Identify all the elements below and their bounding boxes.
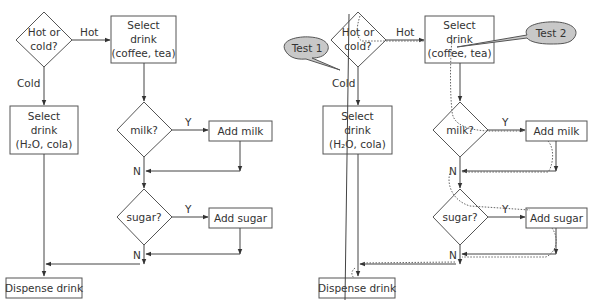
milk-no-label: N xyxy=(133,165,141,177)
test1-path xyxy=(345,14,349,300)
sugar-yes-label: Y xyxy=(184,203,192,215)
sugar-question: sugar? xyxy=(442,211,477,223)
milk-yes-label: Y xyxy=(184,116,192,128)
hot-or-cold-text-1: Hot or xyxy=(342,26,375,38)
select-cold-text-3: (H₂O, cola) xyxy=(329,138,386,150)
select-cold-text-3: (H₂O, cola) xyxy=(16,138,73,150)
test2-callout-text: Test 2 xyxy=(535,27,567,39)
select-hot-text-2: drink xyxy=(130,33,158,45)
left-flowchart: Hot or cold? Hot Select drink (coffee, t… xyxy=(5,12,272,298)
milk-question: milk? xyxy=(446,124,474,136)
sugar-no-label: N xyxy=(449,249,457,261)
select-hot-text-1: Select xyxy=(443,19,475,31)
select-cold-text-1: Select xyxy=(341,110,373,122)
select-cold-text-1: Select xyxy=(28,110,60,122)
add-milk-text: Add milk xyxy=(218,125,265,137)
sugar-yes-label: Y xyxy=(501,203,509,215)
hot-label: Hot xyxy=(80,26,98,38)
select-hot-text-3: (coffee, tea) xyxy=(111,47,175,59)
dispense-drink-text: Dispense drink xyxy=(5,282,84,294)
flowchart-canvas: Hot or cold? Hot Select drink (coffee, t… xyxy=(0,0,597,306)
cold-label: Cold xyxy=(17,77,40,89)
select-hot-text-3: (coffee, tea) xyxy=(427,47,491,59)
hot-label: Hot xyxy=(396,26,414,38)
right-flowchart: Hot or cold? Hot Select drink (coffee, t… xyxy=(284,12,587,300)
sugar-no-label: N xyxy=(133,249,141,261)
add-sugar-text: Add sugar xyxy=(530,212,584,224)
select-cold-text-2: drink xyxy=(344,124,372,136)
hot-or-cold-text-2: cold? xyxy=(30,40,57,52)
milk-yes-label: Y xyxy=(501,116,509,128)
dispense-drink-text: Dispense drink xyxy=(318,282,397,294)
select-hot-text-1: Select xyxy=(127,19,159,31)
add-sugar-text: Add sugar xyxy=(214,212,268,224)
select-hot-text-2: drink xyxy=(446,33,474,45)
cold-label: Cold xyxy=(332,77,355,89)
test1-callout: Test 1 xyxy=(284,37,340,70)
sugar-question: sugar? xyxy=(126,211,161,223)
milk-question: milk? xyxy=(130,124,158,136)
select-cold-text-2: drink xyxy=(31,124,59,136)
hot-or-cold-text-1: Hot or xyxy=(28,26,61,38)
add-milk-text: Add milk xyxy=(534,125,581,137)
test1-callout-text: Test 1 xyxy=(291,42,323,54)
